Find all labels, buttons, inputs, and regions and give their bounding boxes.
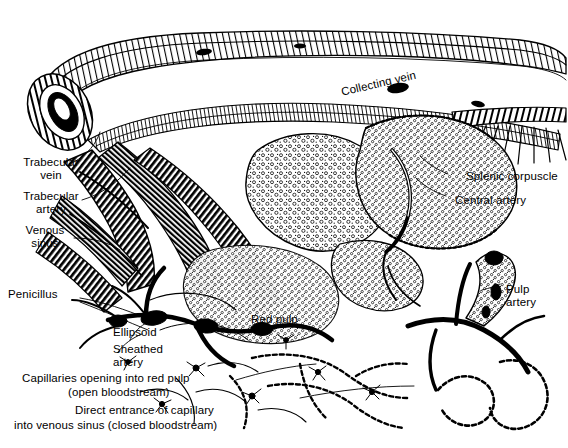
- label-open-bloodstream: (open bloodstream): [68, 386, 170, 399]
- label-penicillus: Penicillus: [8, 288, 58, 301]
- spleen-circulation-figure: Trabecular vein Trabecular artery Venous…: [0, 0, 568, 448]
- label-splenic-corpuscle: Splenic corpuscle: [466, 170, 558, 183]
- label-pulp-artery: Pulp artery: [506, 283, 536, 309]
- label-sheathed-artery: Sheathed artery: [113, 343, 163, 369]
- label-red-pulp: Red pulp: [251, 313, 298, 326]
- label-central-artery: Central artery: [455, 194, 526, 207]
- label-direct-entrance-capillary: Direct entrance of capillary: [75, 404, 214, 417]
- label-into-venous-sinus: into venous sinus (closed bloodstream): [14, 419, 217, 432]
- label-trabecular-vein: Trabecular vein: [10, 156, 92, 182]
- label-ellipsoid: Ellipsoid: [113, 326, 157, 339]
- label-venous-sinus: Venous sinus: [14, 224, 76, 250]
- label-trabecular-artery: Trabecular artery: [10, 190, 92, 216]
- label-capillaries-open-red-pulp: Capillaries opening into red pulp: [22, 372, 190, 385]
